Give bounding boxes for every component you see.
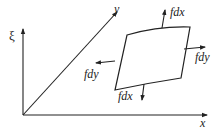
force-left-label: fdy [84, 67, 99, 81]
xi-axis-label: ξ [9, 28, 15, 43]
force-bottom-label: fdx [118, 89, 133, 103]
force-diagram: ξ x y fdx fdy fdy fdx [0, 0, 221, 128]
x-axis: x [23, 115, 207, 128]
force-left: fdy [84, 61, 115, 81]
force-right: fdy [184, 47, 210, 64]
surface-patch [115, 27, 190, 90]
xi-axis: ξ [9, 28, 23, 115]
y-axis-label: y [113, 2, 120, 16]
x-axis-label: x [199, 116, 206, 128]
force-right-label: fdy [195, 50, 210, 64]
force-top-label: fdx [170, 5, 185, 19]
force-top: fdx [162, 5, 185, 28]
y-axis: y [23, 2, 120, 115]
